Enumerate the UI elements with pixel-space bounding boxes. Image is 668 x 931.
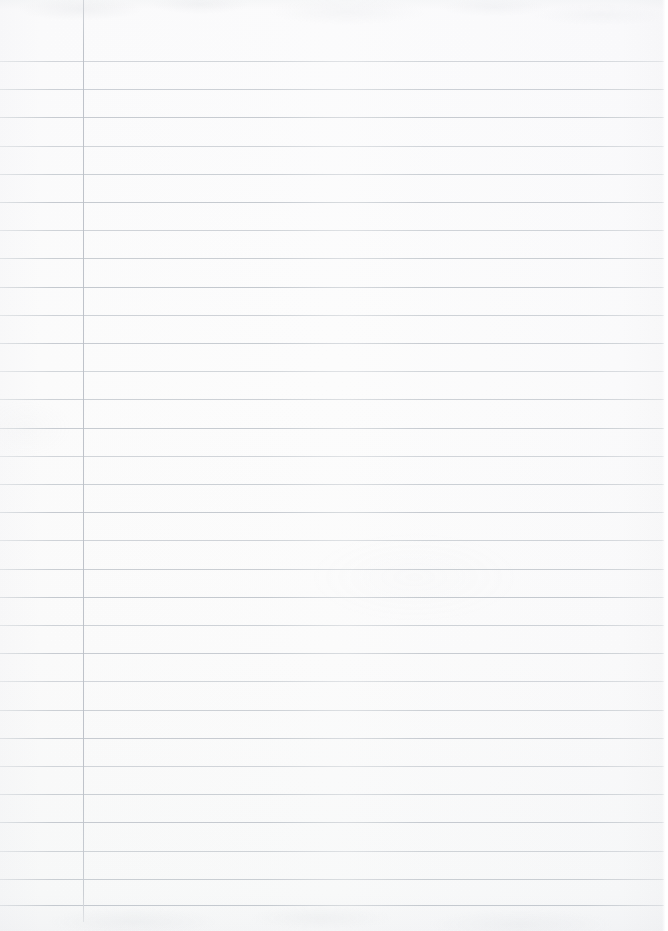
rule-line	[0, 456, 664, 457]
rule-line	[0, 202, 664, 203]
rule-line	[0, 89, 664, 90]
vertical-margin-rule	[83, 0, 84, 922]
notebook-page-scan	[0, 0, 668, 931]
rule-line	[0, 597, 664, 598]
margin-gutter	[0, 0, 83, 931]
rule-line	[0, 174, 664, 175]
rule-line	[0, 569, 664, 570]
rule-line	[0, 681, 664, 682]
writing-area	[84, 61, 664, 905]
rule-line	[0, 540, 664, 541]
paper-texture-overlay	[0, 0, 668, 931]
rule-line	[0, 851, 664, 852]
rule-line	[0, 258, 664, 259]
rule-line	[0, 428, 664, 429]
rule-line	[0, 117, 664, 118]
rule-line	[0, 512, 664, 513]
right-edge-fade	[662, 0, 668, 931]
rule-line	[0, 766, 664, 767]
rule-line	[0, 371, 664, 372]
rule-line	[0, 905, 664, 906]
rule-line	[0, 625, 664, 626]
rule-line	[0, 822, 664, 823]
rule-line	[0, 61, 664, 62]
rule-line	[0, 343, 664, 344]
rule-line	[0, 710, 664, 711]
rule-line	[0, 794, 664, 795]
rule-line	[0, 146, 664, 147]
rule-line	[0, 399, 664, 400]
rule-line	[0, 484, 664, 485]
rule-line	[0, 653, 664, 654]
unruled-header-area	[0, 0, 668, 61]
rule-line	[0, 230, 664, 231]
rule-line	[0, 738, 664, 739]
rule-line	[0, 315, 664, 316]
rule-line	[0, 287, 664, 288]
rule-line	[0, 879, 664, 880]
